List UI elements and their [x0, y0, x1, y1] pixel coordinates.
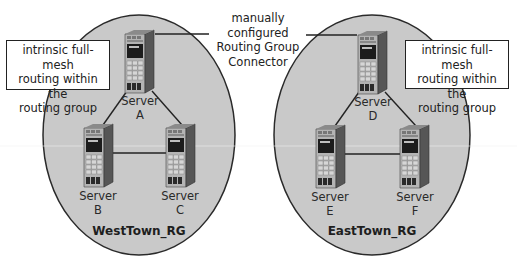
- server-id-text: C: [155, 203, 205, 217]
- server-id-text: B: [73, 203, 123, 217]
- callout-line-3: routing group: [9, 101, 107, 116]
- server-label-text: Server: [305, 190, 355, 204]
- callout-easttown: intrinsic full-mesh routing within the r…: [405, 40, 509, 89]
- server-f-label: Server F: [390, 190, 440, 218]
- routing-group-name-easttown: EastTown_RG: [322, 224, 422, 238]
- server-b-label: Server B: [73, 189, 123, 217]
- server-tower-icon[interactable]: [400, 125, 429, 188]
- server-label-text: Server: [390, 190, 440, 204]
- server-tower-icon[interactable]: [316, 125, 345, 188]
- server-tower-icon[interactable]: [358, 31, 387, 94]
- callout-line-3: routing group: [408, 101, 506, 116]
- routing-group-name-westtown: WestTown_RG: [89, 224, 189, 238]
- connector-label-line-1: manually configured: [206, 11, 310, 40]
- server-d-label: Server D: [348, 95, 398, 123]
- server-tower-icon[interactable]: [166, 124, 195, 187]
- server-a-label: Server A: [115, 94, 165, 122]
- server-label-text: Server: [155, 189, 205, 203]
- server-tower-icon[interactable]: [84, 124, 113, 187]
- connector-label-line-2: Routing Group: [206, 40, 310, 55]
- server-tower-icon[interactable]: [125, 30, 154, 93]
- server-label-text: Server: [115, 94, 165, 108]
- server-id-text: D: [348, 109, 398, 123]
- callout-westtown: intrinsic full-mesh routing within the r…: [6, 40, 110, 90]
- server-id-text: A: [115, 108, 165, 122]
- callout-line-1: intrinsic full-mesh: [408, 43, 506, 72]
- callout-line-1: intrinsic full-mesh: [9, 43, 107, 72]
- server-c-label: Server C: [155, 189, 205, 217]
- callout-line-2: routing within the: [9, 72, 107, 101]
- server-id-text: E: [305, 204, 355, 218]
- callout-line-2: routing within the: [408, 72, 506, 101]
- server-id-text: F: [390, 204, 440, 218]
- connector-label: manually configured Routing Group Connec…: [206, 11, 310, 69]
- server-label-text: Server: [73, 189, 123, 203]
- server-label-text: Server: [348, 95, 398, 109]
- connector-label-line-3: Connector: [206, 55, 310, 70]
- server-e-label: Server E: [305, 190, 355, 218]
